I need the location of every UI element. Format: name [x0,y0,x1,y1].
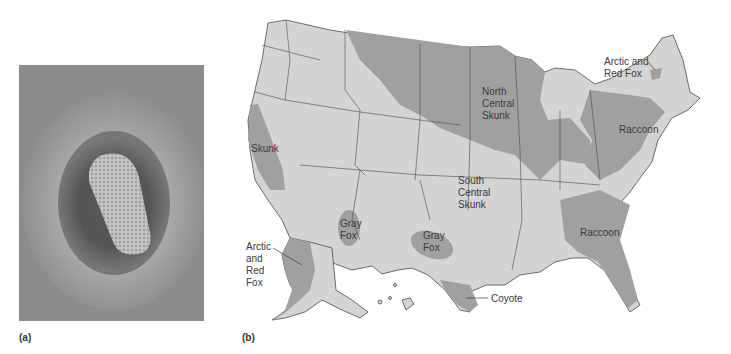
label-arctic-fox-ak-2: and [246,253,263,264]
label-skunk: Skunk [251,143,280,154]
reservoir-map: Skunk North Central Skunk South Central … [225,0,731,354]
label-south-central-skunk-2: Central [458,187,490,198]
label-coyote: Coyote [491,293,523,304]
label-gray-fox-tx-1: Gray [423,230,445,241]
label-arctic-fox-ak-3: Red [246,265,264,276]
label-arctic-fox-ne-2: Red Fox [604,68,642,79]
panel-a-label: (a) [19,332,31,343]
panel-b-label: (b) [242,332,255,343]
label-gray-fox-az-2: Fox [340,230,357,241]
label-raccoon-se: Raccoon [580,227,619,238]
micrograph-image [19,65,204,321]
label-arctic-fox-ak-4: Fox [246,277,263,288]
label-south-central-skunk-1: South [458,175,484,186]
label-south-central-skunk-3: Skunk [458,199,487,210]
label-raccoon-ne: Raccoon [619,124,658,135]
label-arctic-fox-ne-1: Arctic and [604,56,648,67]
label-north-central-skunk-1: North [482,86,506,97]
label-gray-fox-az-1: Gray [340,218,362,229]
label-arctic-fox-ak-1: Arctic [246,241,271,252]
label-north-central-skunk-2: Central [482,98,514,109]
label-north-central-skunk-3: Skunk [482,110,511,121]
label-gray-fox-tx-2: Fox [423,242,440,253]
